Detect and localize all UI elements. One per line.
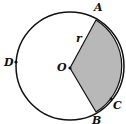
diagram: A r O D C B — [0, 0, 126, 124]
label-b: B — [91, 114, 101, 124]
point-o — [68, 66, 71, 69]
circle-diagram: A r O D C B — [0, 0, 126, 124]
label-o: O — [57, 61, 67, 74]
point-d — [14, 60, 17, 63]
label-d: D — [3, 56, 14, 69]
label-a: A — [93, 1, 103, 14]
point-c — [110, 98, 113, 101]
label-r: r — [76, 32, 83, 45]
label-c: C — [113, 99, 122, 112]
